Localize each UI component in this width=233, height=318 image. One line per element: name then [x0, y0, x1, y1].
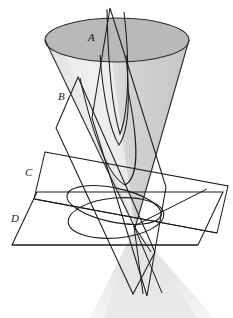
plane-label-C: C [25, 166, 33, 178]
cone-top-disc [45, 18, 189, 62]
plane-label-B: B [58, 90, 65, 102]
conic-sections-figure: A B C D [0, 0, 233, 318]
plane-label-A: A [87, 31, 95, 43]
conic-sections-svg: A B C D [0, 0, 233, 318]
plane-label-D: D [10, 212, 19, 224]
